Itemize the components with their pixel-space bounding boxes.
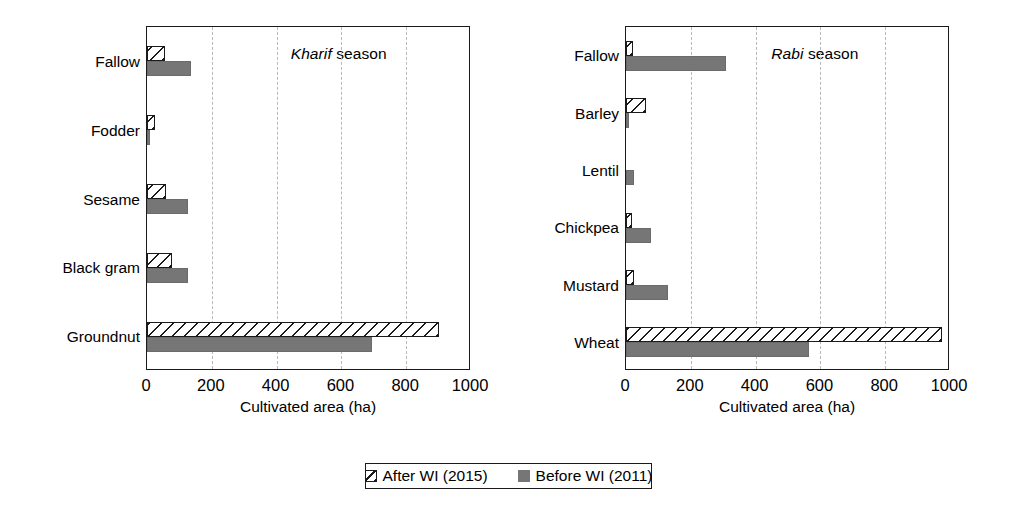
legend-swatch-hatched-icon <box>365 470 377 482</box>
bar-before-wi <box>147 199 188 214</box>
legend-entry-after-wi: After WI (2015) <box>365 467 488 485</box>
legend-label-before-wi: Before WI (2011) <box>536 467 653 485</box>
gridline-600 <box>820 27 821 369</box>
bar-group: Chickpea <box>626 212 948 244</box>
plot-area-rabi: Rabi season FallowBarleyLentilChickpeaMu… <box>625 26 949 370</box>
x-tick-label-800: 800 <box>391 376 419 395</box>
x-tick-label-1000: 1000 <box>931 376 968 395</box>
bar-before-wi <box>147 130 150 145</box>
bar-after-wi <box>626 41 633 56</box>
x-axis-title-kharif: Cultivated area (ha) <box>146 398 470 416</box>
x-tick-label-800: 800 <box>870 376 898 395</box>
bar-after-wi <box>626 270 634 285</box>
x-tick-label-0: 0 <box>620 376 629 395</box>
category-label: Fodder <box>91 123 140 139</box>
category-label: Fallow <box>574 48 619 64</box>
bar-after-wi <box>147 253 172 268</box>
bar-before-wi <box>626 228 651 243</box>
x-tick-label-400: 400 <box>262 376 290 395</box>
bar-group: Fodder <box>147 114 469 146</box>
category-label: Black gram <box>62 260 140 276</box>
x-axis-ticks-rabi: 02004006008001000 <box>625 372 949 396</box>
bar-group: Sesame <box>147 183 469 215</box>
bar-after-wi <box>626 327 942 342</box>
bar-group: Fallow <box>147 45 469 77</box>
category-label: Barley <box>575 106 619 122</box>
bar-before-wi <box>626 170 634 185</box>
bar-group: Lentil <box>626 154 948 186</box>
x-axis-ticks-kharif: 02004006008001000 <box>146 372 470 396</box>
legend-entry-before-wi: Before WI (2011) <box>518 467 653 485</box>
bar-before-wi <box>626 342 809 357</box>
category-label: Groundnut <box>67 329 140 345</box>
x-tick-label-200: 200 <box>197 376 225 395</box>
x-tick-label-0: 0 <box>141 376 150 395</box>
x-tick-label-1000: 1000 <box>452 376 489 395</box>
gridline-800 <box>885 27 886 369</box>
legend-swatch-solid-icon <box>518 470 530 482</box>
bar-before-wi <box>147 337 372 352</box>
bar-after-wi <box>147 184 166 199</box>
gridline-400 <box>756 27 757 369</box>
bar-after-wi <box>626 213 632 228</box>
bar-before-wi <box>147 268 188 283</box>
category-label: Mustard <box>563 278 619 294</box>
x-tick-label-600: 600 <box>327 376 355 395</box>
bar-group: Groundnut <box>147 321 469 353</box>
bar-after-wi <box>147 115 155 130</box>
gridline-200 <box>691 27 692 369</box>
bar-before-wi <box>626 113 629 128</box>
chart-legend: After WI (2015) Before WI (2011) <box>365 463 652 489</box>
category-label: Wheat <box>574 335 619 351</box>
plot-area-kharif: Kharif season FallowFodderSesameBlack gr… <box>146 26 470 370</box>
category-label: Sesame <box>83 192 140 208</box>
figure-two-panel-bar-chart: Kharif season FallowFodderSesameBlack gr… <box>0 0 1015 519</box>
x-tick-label-600: 600 <box>806 376 834 395</box>
x-tick-label-400: 400 <box>741 376 769 395</box>
bar-after-wi <box>147 46 165 61</box>
category-label: Fallow <box>95 54 140 70</box>
legend-label-after-wi: After WI (2015) <box>383 467 488 485</box>
panel-rabi: Rabi season FallowBarleyLentilChickpeaMu… <box>507 0 1014 450</box>
bar-group: Fallow <box>626 40 948 72</box>
x-axis-title-rabi: Cultivated area (ha) <box>625 398 949 416</box>
bar-after-wi <box>626 98 646 113</box>
bar-group: Wheat <box>626 326 948 358</box>
bar-group: Black gram <box>147 252 469 284</box>
bar-before-wi <box>147 61 191 76</box>
bar-before-wi <box>626 56 726 71</box>
category-label: Lentil <box>582 163 619 179</box>
bar-before-wi <box>626 285 668 300</box>
panel-kharif: Kharif season FallowFodderSesameBlack gr… <box>0 0 507 450</box>
x-tick-label-200: 200 <box>676 376 704 395</box>
bar-after-wi <box>147 322 439 337</box>
bar-group: Mustard <box>626 269 948 301</box>
category-label: Chickpea <box>554 220 619 236</box>
bar-group: Barley <box>626 97 948 129</box>
